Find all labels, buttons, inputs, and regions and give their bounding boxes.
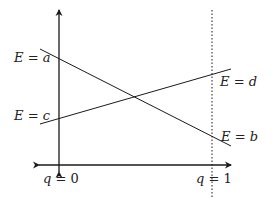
energy-line-c-to-d bbox=[40, 69, 231, 124]
label-q-equals-1: q = 1 bbox=[196, 171, 232, 186]
label-E-equals-d: E = d bbox=[219, 74, 257, 89]
label-E-equals-b: E = b bbox=[220, 129, 258, 144]
label-E-equals-a: E = a bbox=[13, 50, 50, 65]
diagram-canvas: E = a E = c E = d E = b q = 0 q = 1 bbox=[0, 0, 272, 198]
label-q-equals-0: q = 0 bbox=[43, 171, 79, 186]
energy-line-a-to-b bbox=[40, 49, 231, 146]
label-E-equals-c: E = c bbox=[13, 108, 51, 123]
